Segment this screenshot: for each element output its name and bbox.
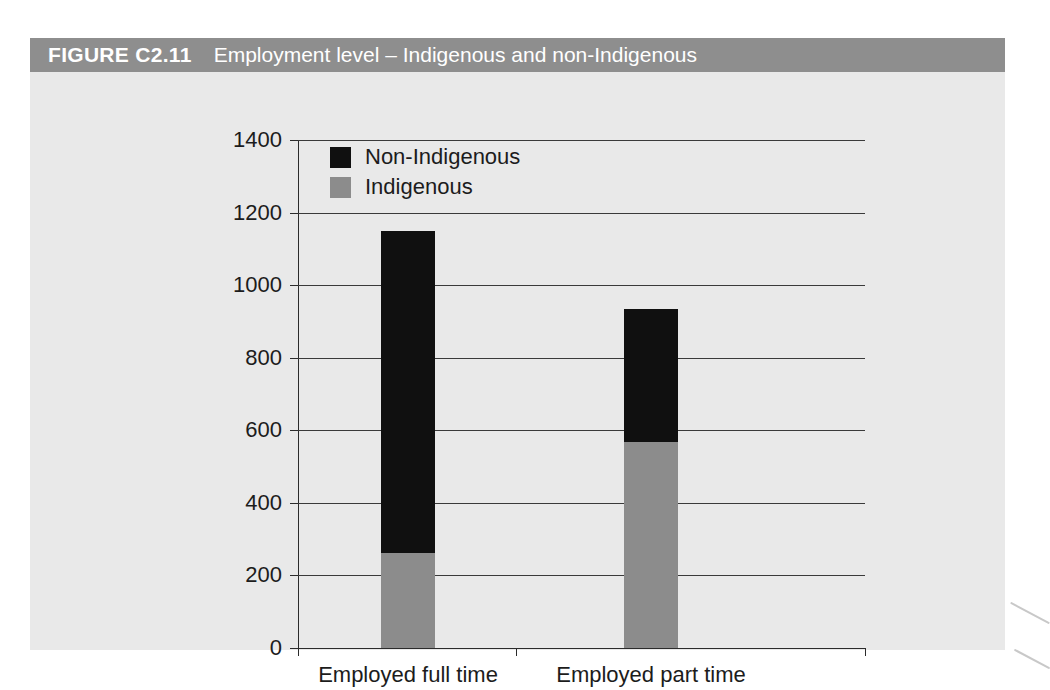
y-tick-mark <box>290 140 298 141</box>
y-gridline <box>298 648 865 649</box>
y-axis-tick-label: 800 <box>214 347 282 369</box>
bar-segment-indigenous <box>381 553 435 648</box>
y-axis-tick-label: 200 <box>214 564 282 586</box>
legend-swatch-non-indigenous <box>330 147 351 168</box>
x-axis-tick-label: Employed part time <box>501 664 801 686</box>
x-tick-mark <box>865 648 866 656</box>
y-axis-tick-label: 400 <box>214 492 282 514</box>
y-tick-mark <box>290 648 298 649</box>
y-tick-mark <box>290 575 298 576</box>
y-tick-mark <box>290 430 298 431</box>
legend-label: Non-Indigenous <box>365 146 520 168</box>
bar-segment-indigenous <box>624 442 678 648</box>
x-tick-mark <box>298 648 299 656</box>
legend-swatch-indigenous <box>330 177 351 198</box>
figure-card: FIGURE C2.11 Employment level – Indigeno… <box>30 38 1005 650</box>
scan-artifact-streak <box>1014 649 1050 670</box>
y-tick-mark <box>290 213 298 214</box>
x-tick-mark <box>516 648 517 656</box>
legend-item: Non-Indigenous <box>330 142 520 172</box>
figure-caption-label: Employment level – Indigenous and non-In… <box>214 43 697 67</box>
figure-number-label: FIGURE C2.11 <box>48 43 192 67</box>
y-axis-tick-label: 0 <box>214 637 282 659</box>
chart-legend: Non-IndigenousIndigenous <box>330 142 520 202</box>
bar-segment-non-indigenous <box>381 231 435 554</box>
y-gridline <box>298 213 865 214</box>
y-axis-line <box>298 140 299 648</box>
figure-title-bar: FIGURE C2.11 Employment level – Indigeno… <box>30 38 1005 72</box>
y-gridline <box>298 140 865 141</box>
y-tick-mark <box>290 285 298 286</box>
legend-label: Indigenous <box>365 176 473 198</box>
legend-item: Indigenous <box>330 172 520 202</box>
scan-artifact-streak <box>1010 602 1050 624</box>
y-axis-tick-label: 1200 <box>214 202 282 224</box>
y-tick-mark <box>290 358 298 359</box>
y-axis-tick-label: 600 <box>214 419 282 441</box>
y-axis-tick-label: 1000 <box>214 274 282 296</box>
y-axis-tick-label: 1400 <box>214 129 282 151</box>
y-tick-mark <box>290 503 298 504</box>
chart-plot-area: 1400120010008006004002000Employed full t… <box>30 72 1005 650</box>
bar-segment-non-indigenous <box>624 309 678 442</box>
